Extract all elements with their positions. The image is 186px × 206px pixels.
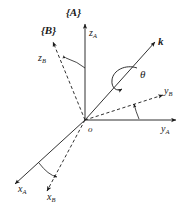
- angle-label-theta: θ: [140, 69, 145, 80]
- vector-label-k: k: [158, 36, 164, 47]
- origin-label: o: [88, 125, 93, 134]
- axis-label-x-b-sub: B: [51, 196, 55, 203]
- angle-arc-y: [134, 104, 139, 119]
- axis-label-z-b-sub: B: [42, 57, 46, 64]
- axis-label-x-a-sub: A: [22, 188, 26, 195]
- vector-line-k: [85, 42, 155, 120]
- axis-label-z-a-sub: A: [93, 32, 97, 39]
- axis-line-z-b: [53, 42, 85, 120]
- rotation-frame-diagram: {A} {B} zA zB k θ yB yA o xA xB: [0, 0, 186, 206]
- axis-label-z-a: zA: [89, 28, 97, 38]
- angle-arc-z: [66, 58, 85, 68]
- angle-arc-x: [39, 163, 57, 177]
- axis-label-x-b: xB: [47, 192, 55, 202]
- axis-label-y-a: yA: [161, 124, 169, 134]
- axis-label-z-b: zB: [38, 53, 46, 63]
- axis-label-x-a: xA: [18, 184, 26, 194]
- axis-label-y-b: yB: [164, 86, 172, 96]
- axis-line-x-b: [47, 120, 85, 191]
- axis-label-y-b-sub: B: [168, 90, 172, 97]
- axis-label-y-a-sub: A: [165, 128, 169, 135]
- frame-label-a: {A}: [66, 7, 81, 18]
- frame-label-b: {B}: [41, 25, 56, 36]
